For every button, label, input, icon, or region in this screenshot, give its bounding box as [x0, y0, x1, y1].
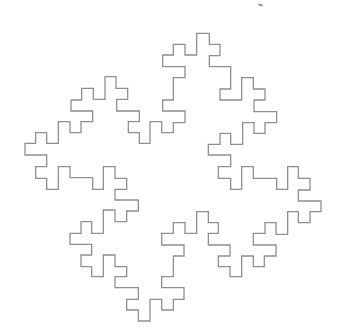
fractal-diagram — [0, 0, 337, 334]
fractal-island-outline — [25, 33, 321, 321]
